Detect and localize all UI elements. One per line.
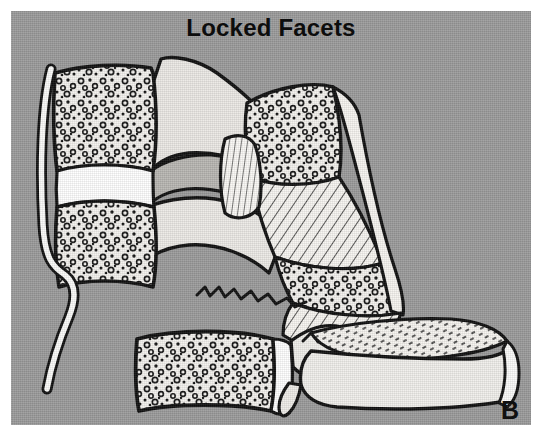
figure-root: B Locked Facets: [0, 0, 542, 437]
figure-title: Locked Facets: [0, 14, 542, 42]
lower-vertebral-body: [136, 332, 293, 415]
dislocated-vertebra: [245, 85, 403, 351]
bone-fragment: [208, 125, 244, 177]
upper-vertebral-body: [54, 65, 156, 171]
illustration-panel: B: [11, 11, 531, 425]
panel-label-b: B: [501, 397, 519, 423]
spine-anatomy-illustration: [11, 11, 531, 425]
lower-posterior-element: [291, 319, 519, 409]
